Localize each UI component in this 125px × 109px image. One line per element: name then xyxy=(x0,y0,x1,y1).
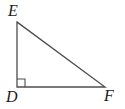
vertex-label-d: D xyxy=(6,89,18,105)
triangle-outline xyxy=(17,22,105,87)
right-angle-marker-icon xyxy=(17,79,25,87)
vertex-label-f: F xyxy=(104,88,114,104)
geometry-figure-right-triangle: E D F xyxy=(0,0,125,109)
vertex-label-e: E xyxy=(8,3,18,19)
